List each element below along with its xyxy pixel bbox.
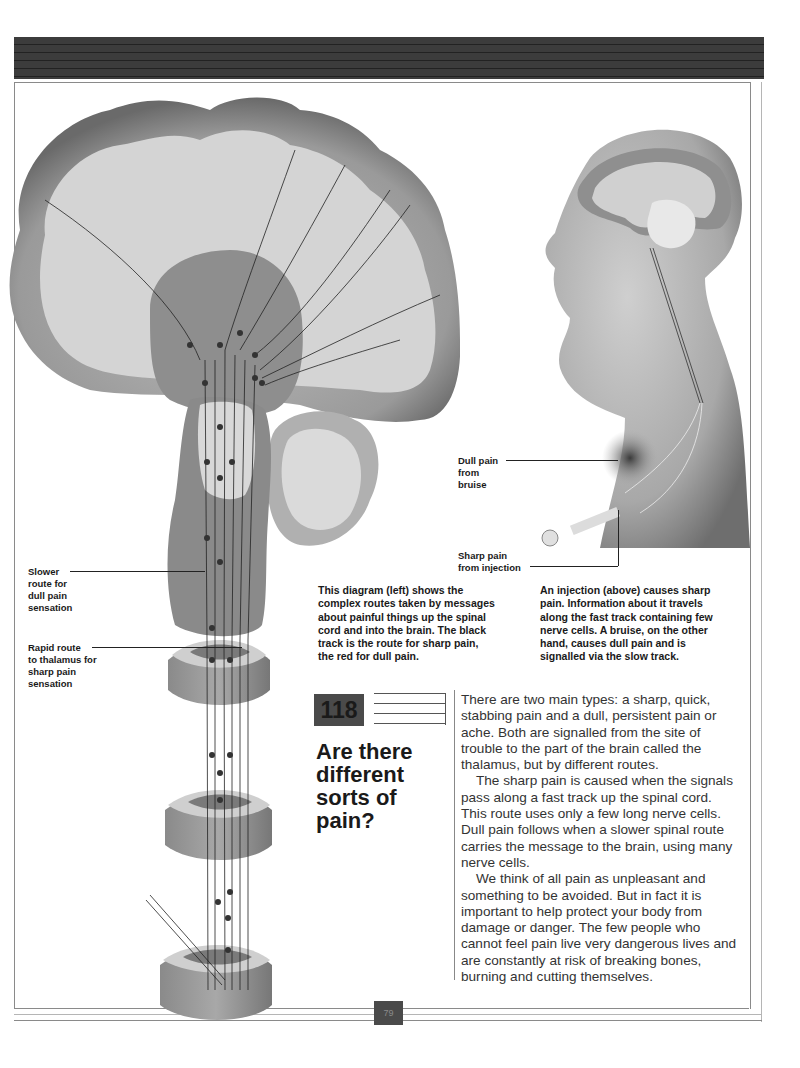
page-number: 79 <box>374 1001 403 1025</box>
body-column-rule <box>454 690 455 980</box>
leader-dull-pain <box>506 460 618 461</box>
head-torso-illustration <box>530 118 760 558</box>
leader-rapid-route <box>92 647 242 648</box>
body-paragraph: There are two main types: a sharp, quick… <box>461 692 741 773</box>
question-title: Are there different sorts of pain? <box>316 740 436 832</box>
label-sharp-pain: Sharp pain from injection <box>458 550 521 574</box>
header-band <box>14 37 764 79</box>
leader-slower-route <box>70 571 205 572</box>
brain-spinal-cord-illustration <box>0 90 460 1040</box>
label-rapid-route: Rapid route to thalamus for sharp pain s… <box>28 642 97 690</box>
body-text: There are two main types: a sharp, quick… <box>461 692 741 985</box>
caption-right: An injection (above) causes sharp pain. … <box>540 584 740 664</box>
leader-sharp-pain-vertical <box>618 510 619 566</box>
leader-sharp-pain <box>530 566 618 567</box>
caption-left: This diagram (left) shows the complex ro… <box>318 584 518 664</box>
label-slower-route: Slower route for dull pain sensation <box>28 566 72 614</box>
question-number-badge: 118 <box>314 694 364 726</box>
question-number-rules <box>374 693 446 725</box>
label-dull-pain: Dull pain from bruise <box>458 455 498 491</box>
body-paragraph: We think of all pain as unpleasant and s… <box>461 871 741 985</box>
body-paragraph: The sharp pain is caused when the signal… <box>461 773 741 871</box>
page-frame-outer-right <box>761 82 762 1022</box>
